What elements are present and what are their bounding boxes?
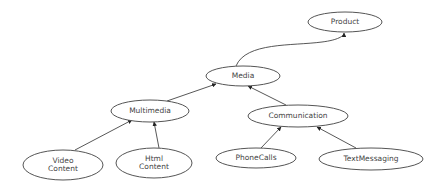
- edge-textmessaging-to-communication: [317, 127, 356, 148]
- node-phonecalls[interactable]: PhoneCalls: [216, 148, 296, 168]
- edge-multimedia-to-media: [167, 84, 216, 101]
- node-communication[interactable]: Communication: [248, 105, 348, 127]
- node-label: Product: [331, 17, 360, 26]
- node-label: Multimedia: [129, 106, 171, 115]
- edge-video-content-to-multimedia: [75, 120, 132, 150]
- nodes-layer: ProductMediaMultimediaCommunicationVideo…: [23, 12, 423, 180]
- node-media[interactable]: Media: [206, 66, 280, 86]
- edge-html-content-to-multimedia: [154, 122, 159, 148]
- node-label: Media: [232, 71, 255, 80]
- node-label: Content: [139, 162, 169, 171]
- node-label: Communication: [268, 111, 327, 120]
- node-label: PhoneCalls: [235, 153, 276, 162]
- node-product[interactable]: Product: [308, 12, 382, 32]
- edge-phonecalls-to-communication: [261, 127, 281, 148]
- node-textmessaging[interactable]: TextMessaging: [319, 148, 423, 170]
- node-multimedia[interactable]: Multimedia: [111, 100, 189, 122]
- node-html-content[interactable]: HtmlContent: [116, 148, 192, 178]
- node-label: Content: [48, 164, 78, 173]
- node-video-content[interactable]: VideoContent: [23, 150, 103, 180]
- edge-media-to-product: [236, 33, 344, 66]
- edge-communication-to-media: [248, 86, 286, 105]
- edges-layer: [75, 33, 356, 150]
- node-label: TextMessaging: [342, 154, 398, 163]
- hierarchy-diagram: ProductMediaMultimediaCommunicationVideo…: [0, 0, 444, 190]
